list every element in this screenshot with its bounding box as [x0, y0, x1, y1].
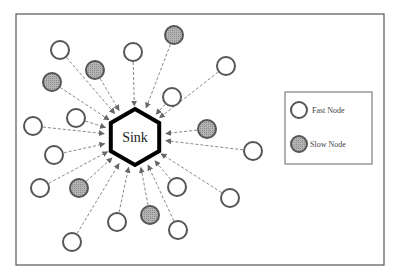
fast-node	[67, 109, 85, 127]
sink-label: Sink	[122, 130, 148, 145]
network-diagram: Sink Fast Node Slow Node	[0, 0, 395, 275]
fast-node	[24, 117, 42, 135]
fast-node	[124, 43, 142, 61]
fast-node	[163, 88, 181, 106]
slow-node	[86, 61, 104, 79]
sink-node: Sink	[111, 109, 159, 165]
legend-fast-label: Fast Node	[312, 106, 345, 115]
legend-slow-label: Slow Node	[310, 140, 346, 149]
slow-node	[165, 26, 183, 44]
fast-node	[63, 233, 81, 251]
legend: Fast Node Slow Node	[285, 92, 372, 164]
fast-node	[51, 41, 69, 59]
fast-node	[221, 189, 239, 207]
fast-node	[31, 179, 49, 197]
fast-node	[108, 213, 126, 231]
fast-node	[244, 142, 262, 160]
slow-node	[70, 179, 88, 197]
fast-node	[168, 178, 186, 196]
fast-node	[217, 57, 235, 75]
slow-node	[43, 73, 61, 91]
slow-node	[141, 206, 159, 224]
legend-slow-node-icon	[291, 136, 307, 152]
fast-node	[45, 146, 63, 164]
legend-fast-node-icon	[291, 102, 307, 118]
fast-node	[169, 221, 187, 239]
slow-node	[198, 120, 216, 138]
